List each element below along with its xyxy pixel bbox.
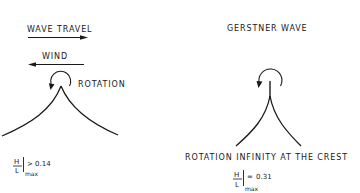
ratio-subscript: max: [245, 185, 259, 192]
left-panel: WAVE TRAVEL WIND ROTATION H L max: [2, 25, 126, 177]
wind-label: WIND: [42, 52, 68, 61]
left-steepness-ratio: H L max > 0.14: [13, 157, 51, 177]
ratio-subscript: max: [25, 170, 39, 177]
gerstner-wave-title: GERSTNER WAVE: [227, 24, 308, 33]
ratio-operator: >: [27, 160, 33, 168]
ratio-numerator: H: [14, 158, 19, 166]
rotation-infinity-caption: ROTATION INFINITY AT THE CREST: [185, 153, 348, 162]
rotation-arrow-icon: [49, 71, 71, 90]
trochoidal-crest-curve: [236, 81, 301, 146]
rotation-arrow-icon: [257, 69, 282, 88]
wind-arrow-icon: [28, 62, 84, 66]
ratio-numerator: H: [234, 171, 239, 179]
wave-travel-arrow-icon: [28, 35, 88, 39]
right-steepness-ratio: H L max = 0.31: [233, 170, 272, 192]
ratio-value: 0.31: [256, 173, 272, 181]
right-panel: GERSTNER WAVE ROTATION INFINITY AT THE C…: [185, 24, 348, 192]
sharp-crest-curve: [2, 86, 118, 136]
wave-travel-label: WAVE TRAVEL: [27, 25, 92, 34]
wave-crest-diagram: WAVE TRAVEL WIND ROTATION H L max: [0, 0, 360, 193]
ratio-denominator: L: [15, 167, 19, 175]
rotation-label: ROTATION: [78, 80, 126, 89]
ratio-operator: =: [247, 173, 253, 181]
ratio-denominator: L: [235, 181, 239, 189]
ratio-value: 0.14: [35, 160, 51, 168]
